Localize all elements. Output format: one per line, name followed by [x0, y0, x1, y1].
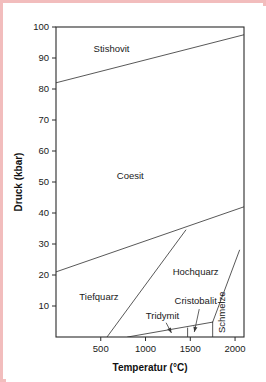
y-tick-label-50: 50 [38, 176, 49, 187]
phase-boundary-coesit-quarz-boundary [56, 207, 244, 272]
y-tick-label-70: 70 [38, 114, 49, 125]
region-label-tiefquarz: Tiefquarz [79, 291, 118, 302]
x-tick-label-1500: 1500 [180, 343, 201, 354]
y-tick-label-10: 10 [38, 300, 49, 311]
x-tick-label-1000: 1000 [135, 343, 156, 354]
y-tick-label-100: 100 [33, 21, 49, 32]
phase-boundary-stishovit-coesit-boundary [56, 35, 244, 83]
y-tick-label-90: 90 [38, 52, 49, 63]
y-tick-label-60: 60 [38, 145, 49, 156]
region-label-stishovit: Stishovit [94, 43, 130, 54]
y-tick-label-20: 20 [38, 269, 49, 280]
x-tick-label-2000: 2000 [224, 343, 245, 354]
y-axis-title: Druck (kbar) [13, 153, 24, 212]
region-label-schmelze: Schmelze [216, 291, 227, 333]
y-tick-label-30: 30 [38, 238, 49, 249]
x-tick-label-500: 500 [93, 343, 109, 354]
region-label-tridymit: Tridymit [146, 310, 180, 321]
y-tick-label-80: 80 [38, 83, 49, 94]
x-axis-title: Temperatur (°C) [113, 362, 188, 373]
figure-canvas: 102030405060708090100500100015002000Temp… [6, 6, 266, 382]
region-label-cristobalit: Cristobalit [175, 295, 218, 306]
y-tick-label-40: 40 [38, 207, 49, 218]
phase-diagram-chart: 102030405060708090100500100015002000Temp… [7, 7, 266, 382]
figure-frame: 102030405060708090100500100015002000Temp… [0, 0, 266, 382]
region-label-coesit: Coesit [117, 170, 144, 181]
arrow-head-cristobalit [193, 327, 197, 333]
region-label-hochquarz: Hochquarz [173, 266, 219, 277]
